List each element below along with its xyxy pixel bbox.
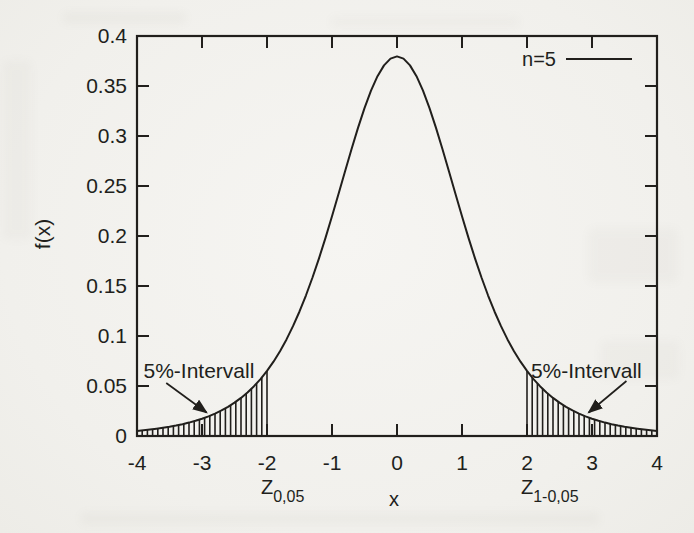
- annotation-label: 5%-Intervall: [144, 359, 255, 382]
- y-tick-label: 0.35: [86, 74, 127, 97]
- annotation-label: 5%-Intervall: [531, 359, 642, 382]
- y-tick-label: 0.2: [98, 224, 127, 247]
- legend-label: n=5: [522, 48, 556, 70]
- x-tick-label: 1: [456, 451, 468, 474]
- y-tick-label: 0.1: [98, 324, 127, 347]
- x-tick-label: 3: [586, 451, 598, 474]
- x-tick-label: -1: [323, 451, 342, 474]
- x-tick-label: 0: [391, 451, 403, 474]
- annotation-arrow: [166, 383, 206, 413]
- density-plot: -4-3-2-10123400.050.10.150.20.250.30.350…: [0, 0, 694, 533]
- y-tick-label: 0: [115, 424, 127, 447]
- y-tick-label: 0.3: [98, 124, 127, 147]
- y-tick-label: 0.4: [98, 24, 128, 47]
- x-tick-label: 4: [651, 451, 663, 474]
- legend: n=5: [522, 48, 632, 70]
- scanned-page: -4-3-2-10123400.050.10.150.20.250.30.350…: [0, 0, 694, 533]
- annotation: 5%-Intervall: [144, 359, 255, 413]
- x-tick-label: -4: [128, 451, 147, 474]
- x-tick-label: -2: [258, 451, 277, 474]
- quantile-label: Z0,05: [261, 476, 304, 505]
- quantile-label: Z1-0,05: [521, 476, 579, 505]
- x-tick-label: -3: [193, 451, 212, 474]
- x-tick-label: 2: [521, 451, 533, 474]
- y-tick-label: 0.05: [86, 374, 127, 397]
- y-tick-label: 0.15: [86, 274, 127, 297]
- x-axis-label: x: [389, 488, 399, 510]
- y-axis-label: f(x): [31, 219, 54, 249]
- y-tick-label: 0.25: [86, 174, 127, 197]
- annotation-arrow: [589, 381, 627, 413]
